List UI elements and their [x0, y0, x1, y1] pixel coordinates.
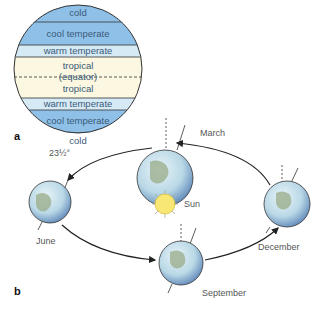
- zone-label: tropical: [63, 83, 94, 94]
- earth-september: [159, 224, 203, 293]
- sun-label: Sun: [184, 199, 200, 209]
- month-label-september: September: [202, 288, 246, 298]
- earth-december: [264, 165, 310, 233]
- month-label-march: March: [200, 128, 225, 138]
- zone-label: cold: [69, 7, 86, 18]
- panel-label-b: b: [14, 285, 21, 297]
- panel-label-a: a: [14, 130, 21, 142]
- month-label-december: December: [258, 242, 300, 252]
- seasons-diagram: cold cool temperate warm temperate tropi…: [0, 0, 317, 309]
- tilt-angle-label: 23½°: [49, 148, 71, 158]
- earth-june: [29, 180, 71, 230]
- zone-label: tropical: [63, 60, 94, 71]
- month-label-june: June: [36, 236, 56, 246]
- zone-label: cool temperate: [47, 28, 110, 39]
- zone-label: warm temperate: [43, 98, 113, 109]
- zone-label: cold: [69, 135, 86, 146]
- zone-label: (equator): [59, 71, 98, 82]
- zone-label: warm temperate: [43, 45, 113, 56]
- zone-label: cool temperate: [47, 115, 110, 126]
